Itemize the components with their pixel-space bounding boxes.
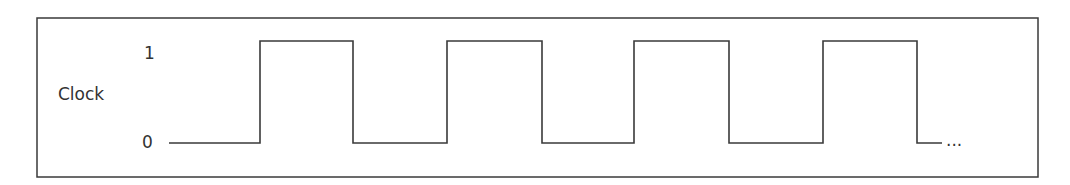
low-level-label: 0: [142, 132, 153, 152]
high-level-label: 1: [144, 43, 155, 63]
clock-waveform: [169, 41, 942, 143]
clock-timing-diagram: 1 Clock 0 ...: [0, 0, 1070, 185]
diagram-frame: [37, 18, 1038, 177]
signal-label: Clock: [58, 84, 104, 104]
continuation-ellipsis: ...: [946, 130, 962, 150]
